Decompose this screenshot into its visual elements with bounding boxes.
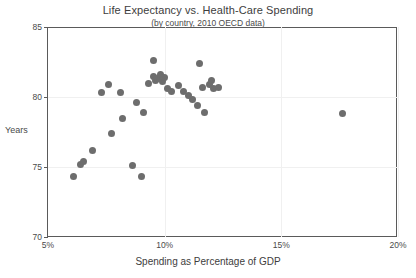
data-point <box>117 89 124 96</box>
gridline-horizontal <box>48 167 398 168</box>
y-axis-label: Years <box>5 125 28 135</box>
data-point <box>339 110 346 117</box>
scatter-chart: Life Expectancy vs. Health-Care Spending… <box>0 0 416 278</box>
data-point <box>98 89 105 96</box>
chart-title: Life Expectancy vs. Health-Care Spending <box>0 4 416 16</box>
data-point <box>145 80 152 87</box>
data-point <box>129 162 136 169</box>
gridline-vertical <box>398 27 399 237</box>
y-tick-mark <box>44 237 48 238</box>
y-tick-label: 85 <box>33 22 42 32</box>
y-tick-mark <box>44 97 48 98</box>
data-point <box>105 81 112 88</box>
data-point <box>194 102 201 109</box>
x-axis-label: Spending as Percentage of GDP <box>0 256 416 267</box>
x-tick-label: 10% <box>156 240 173 250</box>
x-tick-label: 20% <box>389 240 406 250</box>
x-tick-label: 15% <box>273 240 290 250</box>
data-point <box>196 60 203 67</box>
y-tick-mark <box>44 167 48 168</box>
plot-area: 70758085 5%10%15%20% <box>47 27 397 237</box>
data-point <box>119 115 126 122</box>
data-point <box>133 99 140 106</box>
y-tick-label: 75 <box>33 162 42 172</box>
data-point <box>108 130 115 137</box>
data-point <box>80 158 87 165</box>
data-point <box>208 77 215 84</box>
gridline-horizontal <box>48 97 398 98</box>
data-point <box>201 109 208 116</box>
gridline-vertical <box>165 27 166 237</box>
data-point <box>89 147 96 154</box>
data-point <box>161 74 168 81</box>
data-point <box>199 84 206 91</box>
data-point <box>215 84 222 91</box>
data-point <box>70 173 77 180</box>
y-tick-label: 70 <box>33 232 42 242</box>
data-point <box>138 173 145 180</box>
y-tick-label: 80 <box>33 92 42 102</box>
gridline-vertical <box>281 27 282 237</box>
y-tick-mark <box>44 27 48 28</box>
data-point <box>150 57 157 64</box>
x-tick-label: 5% <box>42 240 54 250</box>
data-point <box>168 88 175 95</box>
data-point <box>140 109 147 116</box>
